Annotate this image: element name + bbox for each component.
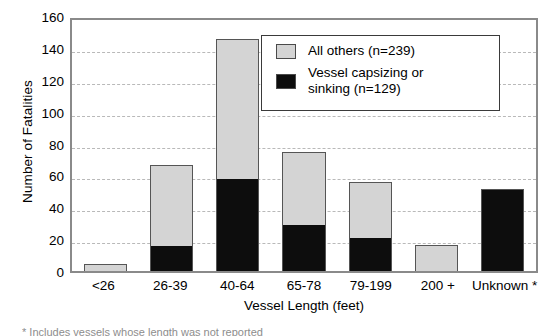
y-tick-label: 60 [24,170,64,184]
x-tick-label: 79-199 [337,278,404,293]
bar-stack[interactable] [481,189,524,271]
bar-stack[interactable] [216,39,259,271]
bar-slot [72,20,138,271]
bar-segment-capsizing[interactable] [482,190,523,271]
legend-item-capsizing: Vessel capsizing or sinking (n=129) [276,65,499,97]
y-tick-label: 40 [24,202,64,216]
bar-segment-capsizing[interactable] [283,225,324,271]
y-tick-label: 140 [24,43,64,57]
bar-segment-all-others[interactable] [416,246,457,272]
y-tick-label: 20 [24,234,64,248]
x-axis-tick-labels: <2626-3940-6465-7879-199200 +Unknown * [70,278,538,293]
footnote: * Includes vessels whose length was not … [22,326,522,336]
x-tick-label: 200 + [404,278,471,293]
legend: All others (n=239) Vessel capsizing or s… [261,35,500,111]
y-tick-label: 80 [24,139,64,153]
bar-stack[interactable] [415,245,458,272]
y-tick-label: 100 [24,107,64,121]
x-axis-title: Vessel Length (feet) [70,298,538,313]
bar-segment-all-others[interactable] [217,40,258,179]
bar-segment-capsizing[interactable] [350,238,391,271]
bar-segment-capsizing[interactable] [151,246,192,272]
bar-segment-all-others[interactable] [151,166,192,246]
legend-label-capsizing: Vessel capsizing or sinking (n=129) [308,65,424,97]
bar-stack[interactable] [282,152,325,271]
legend-item-all-others: All others (n=239) [276,43,499,59]
bar-segment-all-others[interactable] [85,265,126,271]
bar-segment-all-others[interactable] [283,153,324,225]
bar-stack[interactable] [84,264,127,271]
x-tick-label: 26-39 [137,278,204,293]
legend-swatch-capsizing-icon [276,74,296,89]
y-axis-tick-labels: 020406080100120140160 [24,0,64,336]
fatalities-bar-chart: Number of Fatalities 0204060801001201401… [0,0,548,336]
y-tick-label: 160 [24,11,64,25]
bar-slot [138,20,204,271]
legend-label-all-others: All others (n=239) [308,43,415,59]
bar-stack[interactable] [150,165,193,271]
legend-swatch-all-others-icon [276,44,296,59]
x-tick-label: Unknown * [471,278,538,293]
y-tick-label: 0 [24,266,64,280]
bar-stack[interactable] [349,182,392,271]
x-tick-label: 65-78 [271,278,338,293]
x-tick-label: 40-64 [204,278,271,293]
bar-segment-all-others[interactable] [350,183,391,237]
bar-segment-capsizing[interactable] [217,179,258,271]
y-tick-label: 120 [24,75,64,89]
x-tick-label: <26 [70,278,137,293]
